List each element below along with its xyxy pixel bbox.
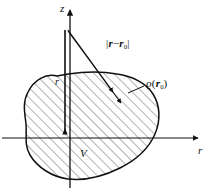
z-axis-label-text: z	[60, 2, 64, 14]
z-axis-label: z	[60, 3, 64, 14]
r-axis-label: r	[198, 145, 202, 156]
position-vector-label-text: r	[55, 76, 59, 87]
volume-label-text: V	[80, 147, 87, 159]
position-vector-label: r	[55, 77, 59, 87]
volume-label: V	[80, 148, 87, 159]
r-axis-label-text: r	[198, 144, 202, 156]
figure-container: z r |r−r0| ϱ(r0) V r	[0, 0, 212, 193]
density-paren-close: )	[164, 77, 168, 89]
distance-bar-close: |	[127, 37, 129, 49]
diagram-canvas	[0, 0, 212, 193]
distance-magnitude-label: |r−r0|	[106, 38, 130, 51]
charge-density-label: ϱ(r0)	[146, 78, 167, 91]
